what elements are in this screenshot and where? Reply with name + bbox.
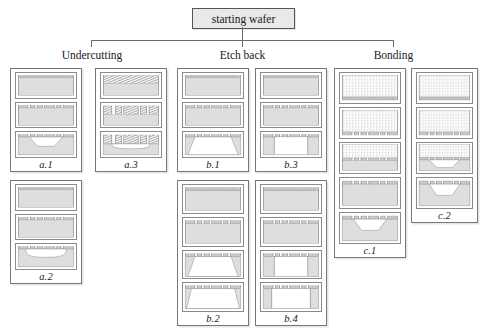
process-step-b3-2	[260, 102, 322, 129]
process-step-b1-1	[182, 72, 244, 99]
panel-label-b1: b.1	[178, 159, 248, 170]
process-step-a3-1	[100, 72, 162, 99]
process-panel-a3: a.3	[95, 68, 167, 172]
process-step-a1-2	[15, 102, 77, 129]
process-panel-b3: b.3	[255, 68, 327, 172]
panel-label-b3: b.3	[256, 159, 326, 170]
process-step-c1-5	[339, 212, 401, 244]
starting-wafer-label: starting wafer	[212, 13, 276, 25]
process-step-c2-4	[416, 177, 473, 209]
process-panel-a1: a.1	[10, 68, 82, 172]
process-step-c1-2	[339, 107, 401, 139]
process-panel-a2: a.2	[10, 180, 82, 284]
process-step-a2-3	[15, 243, 77, 270]
process-step-a3-2	[100, 102, 162, 129]
panel-label-b2: b.2	[178, 313, 248, 324]
panel-label-a3: a.3	[96, 159, 166, 170]
panel-label-c1: c.1	[335, 245, 405, 256]
tree-stem-vertical	[242, 27, 243, 40]
tree-tick-mid	[242, 40, 243, 47]
process-step-c2-3	[416, 142, 473, 174]
process-step-c2-2	[416, 107, 473, 139]
process-step-c1-4	[339, 177, 401, 209]
process-step-b2-4	[182, 282, 244, 312]
process-step-b4-4	[260, 282, 322, 312]
panel-label-a1: a.1	[11, 159, 81, 170]
starting-wafer-box: starting wafer	[192, 8, 295, 29]
process-step-a1-1	[15, 72, 77, 99]
process-step-b1-2	[182, 102, 244, 129]
process-step-c1-3	[339, 142, 401, 174]
branch-label-bonding: Bonding	[341, 49, 446, 61]
process-step-a3-3	[100, 131, 162, 158]
process-step-c2-1	[416, 72, 473, 104]
process-step-b4-2	[260, 217, 322, 247]
process-step-a2-2	[15, 214, 77, 241]
process-step-b4-1	[260, 184, 322, 214]
process-panel-b1: b.1	[177, 68, 249, 172]
panel-label-b4: b.4	[256, 313, 326, 324]
branch-label-etch-back: Etch back	[190, 49, 295, 61]
process-step-b1-3	[182, 131, 244, 158]
panel-label-c2: c.2	[412, 210, 477, 221]
process-step-b2-2	[182, 217, 244, 247]
process-step-b2-3	[182, 250, 244, 280]
tree-tick-right	[393, 40, 394, 47]
process-step-b3-3	[260, 131, 322, 158]
process-panel-c2: c.2	[411, 68, 478, 223]
process-panel-c1: c.1	[334, 68, 406, 258]
process-panel-b4: b.4	[255, 180, 327, 326]
process-step-b2-1	[182, 184, 244, 214]
branch-label-undercutting: Undercutting	[36, 49, 148, 61]
process-panel-b2: b.2	[177, 180, 249, 326]
panel-label-a2: a.2	[11, 271, 81, 282]
tree-tick-left	[91, 40, 92, 47]
process-step-a2-1	[15, 184, 77, 211]
process-flow-diagram: starting wafer Undercutting Etch back Bo…	[0, 0, 487, 332]
process-step-b3-1	[260, 72, 322, 99]
process-step-b4-3	[260, 250, 322, 280]
process-step-a1-3	[15, 131, 77, 158]
process-step-c1-1	[339, 72, 401, 104]
